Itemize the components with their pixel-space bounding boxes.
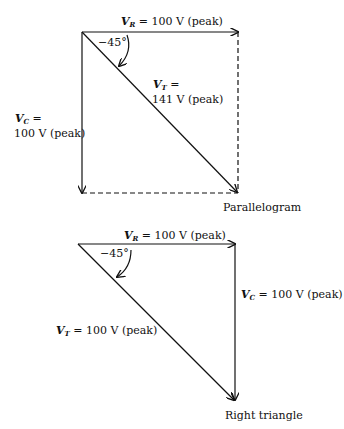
vr-label: VR = 100 V (peak) [121,15,223,29]
parallelogram-diagram: −45° VR = 100 V (peak) VT = 141 V (peak)… [14,15,302,214]
vr-label-bottom: VR = 100 V (peak) [124,229,226,243]
vt-label-bottom: VT = 100 V (peak) [56,324,157,338]
vt-label-line1: VT = [153,78,179,92]
vt-label-line2: 141 V (peak) [152,93,223,106]
right-triangle-caption: Right triangle [225,409,303,422]
parallelogram-caption: Parallelogram [223,201,302,214]
vc-label-line2: 100 V (peak) [14,127,85,140]
vc-label-line1: VC = [15,112,42,126]
angle-label-bottom: −45° [100,247,129,260]
phasor-diagrams: −45° VR = 100 V (peak) VT = 141 V (peak)… [0,0,344,429]
vt-vector-arrow [82,32,237,192]
vt-vector-arrow-bottom [78,244,234,400]
angle-label: −45° [98,36,127,49]
vc-label-bottom: VC = 100 V (peak) [241,288,343,302]
right-triangle-diagram: −45° VR = 100 V (peak) VC = 100 V (peak)… [56,229,343,422]
